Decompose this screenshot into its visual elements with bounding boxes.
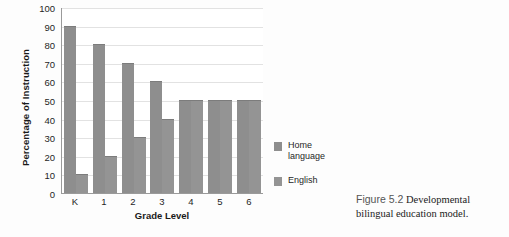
y-axis-tick-50: 50 — [44, 96, 55, 107]
legend-item-home-language: Home language — [274, 140, 344, 162]
bar-groups — [62, 8, 263, 193]
bar-group-K — [64, 8, 88, 193]
bar-group-2 — [122, 8, 146, 193]
legend-label-home-language: Home language — [288, 140, 336, 162]
legend-swatch-home-language — [274, 142, 282, 151]
bar-group-6 — [237, 8, 261, 193]
x-axis-tick-4: 4 — [179, 196, 203, 210]
legend-swatch-english — [274, 177, 282, 186]
bar-2-english — [134, 137, 146, 193]
y-axis-tick-30: 30 — [44, 133, 55, 144]
x-axis-tick-6: 6 — [237, 196, 261, 210]
y-axis-tick-40: 40 — [44, 114, 55, 125]
bar-group-5 — [208, 8, 232, 193]
plot-area — [61, 8, 263, 194]
y-axis-tick-0: 0 — [50, 189, 55, 200]
y-axis-tick-labels: 1009080706050403020100 — [34, 8, 58, 194]
bar-group-1 — [93, 8, 117, 193]
y-axis-title: Percentage of Instruction — [18, 22, 34, 192]
bar-1-english — [105, 156, 117, 193]
bar-6-home-language — [237, 100, 249, 193]
x-axis-tick-2: 2 — [121, 196, 145, 210]
y-axis-tick-70: 70 — [44, 58, 55, 69]
y-axis-tick-90: 90 — [44, 21, 55, 32]
figure-caption: Figure 5.2 Developmental bilingual educa… — [356, 192, 501, 221]
bar-2-home-language — [122, 63, 134, 193]
bar-1-home-language — [93, 44, 105, 193]
x-axis-tick-1: 1 — [92, 196, 116, 210]
bar-3-home-language — [150, 81, 162, 193]
x-axis-tick-5: 5 — [208, 196, 232, 210]
x-axis-tick-labels: K123456 — [61, 196, 263, 210]
y-axis-tick-10: 10 — [44, 170, 55, 181]
bar-6-english — [249, 100, 261, 193]
bar-4-home-language — [179, 100, 191, 193]
x-axis-tick-3: 3 — [150, 196, 174, 210]
bar-K-home-language — [64, 26, 76, 193]
x-axis-tick-K: K — [63, 196, 87, 210]
y-axis-tick-60: 60 — [44, 77, 55, 88]
bar-5-home-language — [208, 100, 220, 193]
bar-4-english — [191, 100, 203, 193]
y-axis-tick-80: 80 — [44, 40, 55, 51]
y-axis-tick-100: 100 — [39, 3, 55, 14]
bar-3-english — [162, 119, 174, 193]
legend-item-english: English — [274, 175, 344, 186]
y-axis-title-text: Percentage of Instruction — [21, 48, 32, 165]
bar-group-4 — [179, 8, 203, 193]
figure-container: Percentage of Instruction 10090807060504… — [0, 0, 509, 237]
bar-group-3 — [150, 8, 174, 193]
bar-K-english — [76, 174, 88, 193]
y-axis-tick-20: 20 — [44, 151, 55, 162]
bar-5-english — [220, 100, 232, 193]
x-axis-title: Grade Level — [61, 210, 263, 221]
chart-legend: Home languageEnglish — [274, 140, 344, 199]
figure-number: Figure 5.2 — [356, 193, 403, 205]
legend-label-english: English — [288, 175, 318, 186]
